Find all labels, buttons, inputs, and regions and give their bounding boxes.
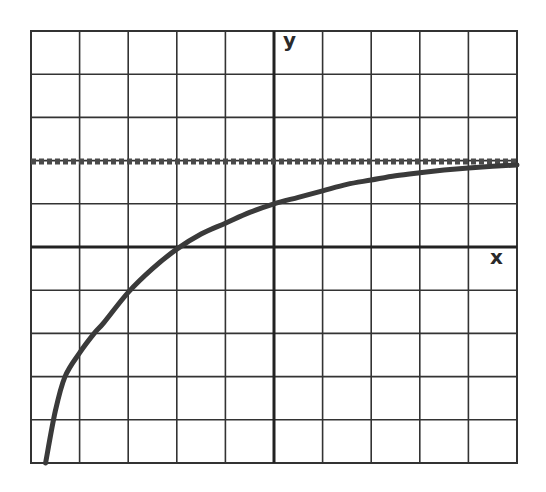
x-axis-label: x (490, 245, 503, 269)
chart: y x (0, 0, 546, 492)
curve (46, 165, 517, 463)
y-axis-label: y (283, 28, 296, 52)
